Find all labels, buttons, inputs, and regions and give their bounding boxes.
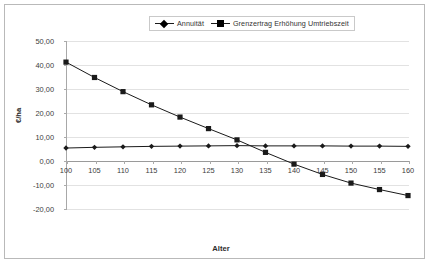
x-axis-tick-label: 155 xyxy=(367,166,393,175)
x-tick-mark xyxy=(210,161,211,164)
gridline-horizontal xyxy=(67,65,409,66)
legend-label-grenzertrag: Grenzertrag Erhöhung Umtriebszeit xyxy=(233,19,349,28)
legend-marker-diamond-icon xyxy=(155,19,174,28)
chart-legend: Annuität Grenzertrag Erhöhung Umtriebsze… xyxy=(149,16,355,31)
legend-marker-square-icon xyxy=(211,19,230,28)
x-axis-tick-label: 100 xyxy=(53,166,79,175)
y-tick-mark xyxy=(64,209,67,210)
y-tick-mark xyxy=(64,113,67,114)
gridline-horizontal xyxy=(67,209,409,210)
x-axis-tick-label: 110 xyxy=(110,166,136,175)
legend-label-annuitaet: Annuität xyxy=(177,19,204,28)
y-axis-tick-label: 10,00 xyxy=(5,133,58,142)
plot-area xyxy=(66,41,408,209)
legend-entry-annuitaet: Annuität xyxy=(155,19,204,28)
gridline-horizontal xyxy=(67,41,409,42)
x-axis-tick-label: 105 xyxy=(82,166,108,175)
x-tick-mark xyxy=(67,161,68,164)
x-axis-tick-label: 130 xyxy=(224,166,250,175)
gridline-horizontal xyxy=(67,89,409,90)
x-tick-mark xyxy=(267,161,268,164)
x-tick-mark xyxy=(124,161,125,164)
y-axis-tick-label: 30,00 xyxy=(5,85,58,94)
x-tick-mark xyxy=(352,161,353,164)
gridline-horizontal xyxy=(67,113,409,114)
x-axis-tick-label: 115 xyxy=(139,166,165,175)
legend-entry-grenzertrag: Grenzertrag Erhöhung Umtriebszeit xyxy=(211,19,349,28)
y-axis-tick-label: 50,00 xyxy=(5,37,58,46)
gridline-horizontal xyxy=(67,185,409,186)
y-axis-tick-label: -20,00 xyxy=(5,205,58,214)
x-tick-mark xyxy=(181,161,182,164)
y-tick-mark xyxy=(64,137,67,138)
y-axis-tick-label: 20,00 xyxy=(5,109,58,118)
x-tick-mark xyxy=(324,161,325,164)
x-tick-mark xyxy=(295,161,296,164)
x-tick-mark xyxy=(153,161,154,164)
x-axis-tick-label: 140 xyxy=(281,166,307,175)
x-axis-tick-label: 145 xyxy=(310,166,336,175)
x-axis-tick-label: 150 xyxy=(338,166,364,175)
chart-frame: Annuität Grenzertrag Erhöhung Umtriebsze… xyxy=(4,4,425,259)
x-tick-mark xyxy=(238,161,239,164)
y-tick-mark xyxy=(64,65,67,66)
x-tick-mark xyxy=(381,161,382,164)
y-axis-tick-label: -10,00 xyxy=(5,181,58,190)
y-axis-tick-label: 0,00 xyxy=(5,157,58,166)
y-tick-mark xyxy=(64,41,67,42)
x-tick-mark xyxy=(96,161,97,164)
gridline-horizontal xyxy=(67,137,409,138)
x-axis-title: Alter xyxy=(5,244,432,253)
x-axis-tick-label: 120 xyxy=(167,166,193,175)
x-axis-tick-label: 135 xyxy=(253,166,279,175)
y-tick-mark xyxy=(64,185,67,186)
y-axis-tick-label: 40,00 xyxy=(5,61,58,70)
y-tick-mark xyxy=(64,89,67,90)
x-tick-mark xyxy=(409,161,410,164)
x-axis-tick-label: 125 xyxy=(196,166,222,175)
x-axis-tick-label: 160 xyxy=(395,166,421,175)
